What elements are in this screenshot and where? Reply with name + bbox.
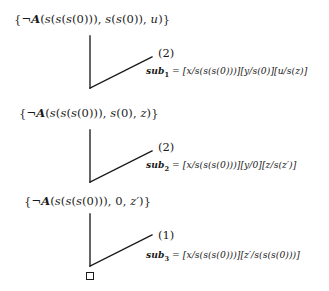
substitution-name-1: sub [146, 65, 164, 76]
substitution-equals-1: = [172, 65, 180, 76]
substitution-value-3: [x/s(s(s(0)))][z′/s(s(s(0)))] [183, 249, 300, 260]
substitution-equals-3: = [172, 249, 180, 260]
substitution-value-2: [x/s(s(s(0)))][y/0][z/s(z′)] [183, 159, 297, 170]
diagonal-edge-2 [90, 151, 152, 182]
substitution-value-1: [x/s(s(s(0)))][y/s(0)][u/s(z)] [183, 65, 308, 76]
rule-label-1: (2) [158, 46, 174, 60]
diagonal-edge-3 [90, 235, 152, 266]
rule-label-2: (2) [158, 140, 174, 154]
diagonal-edge-1 [90, 57, 152, 88]
substitution-name-3: sub [146, 249, 164, 260]
rule-label-3: (1) [158, 228, 174, 242]
substitution-2: sub2 = [x/s(s(s(0)))][y/0][z/s(z′)] [146, 159, 296, 173]
substitution-3: sub3 = [x/s(s(s(0)))][z′/s(s(s(0)))] [146, 249, 300, 263]
substitution-1: sub1 = [x/s(s(s(0)))][y/s(0)][u/s(z)] [146, 65, 307, 79]
substitution-equals-2: = [172, 159, 180, 170]
substitution-name-2: sub [146, 159, 164, 170]
empty-clause-box [86, 272, 94, 280]
derivation-figure: {¬A(s(s(s(0))), s(s(0)), u)} (2) sub1 = … [0, 0, 329, 291]
